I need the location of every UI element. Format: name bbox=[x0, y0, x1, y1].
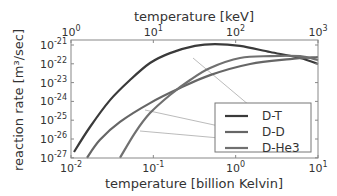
x-tick-label: 10-2 bbox=[60, 160, 82, 175]
y-tick-label: 10-21 bbox=[40, 37, 67, 52]
legend-label: D-D bbox=[262, 125, 285, 139]
y-axis-label: reaction rate [m³/sec] bbox=[11, 29, 26, 171]
x2-tick-label: 103 bbox=[308, 24, 327, 39]
x2-tick-label: 101 bbox=[144, 24, 163, 39]
legend-label: D-T bbox=[262, 109, 282, 123]
y-tick-label: 10-24 bbox=[40, 93, 67, 108]
y-tick-label: 10-25 bbox=[40, 112, 67, 127]
y-tick-label: 10-22 bbox=[40, 56, 67, 71]
x-tick-label: 10-1 bbox=[142, 160, 164, 175]
reaction-rate-chart: 10-210-110010110010110210310-2110-2210-2… bbox=[0, 0, 337, 196]
top-axis-label: temperature [keV] bbox=[134, 9, 254, 24]
chart-container: 10-210-110010110010110210310-2110-2210-2… bbox=[0, 0, 337, 196]
x-tick-label: 100 bbox=[226, 160, 245, 175]
x-tick-label: 101 bbox=[308, 160, 327, 175]
x2-tick-label: 102 bbox=[226, 24, 245, 39]
legend: D-TD-DD-He3 bbox=[215, 103, 311, 155]
bottom-axis-label: temperature [billion Kelvin] bbox=[105, 176, 283, 191]
y-tick-label: 10-26 bbox=[40, 131, 67, 146]
y-tick-label: 10-23 bbox=[40, 75, 67, 90]
legend-label: D-He3 bbox=[262, 141, 300, 155]
